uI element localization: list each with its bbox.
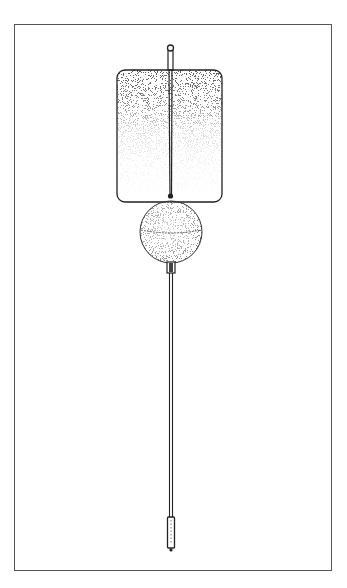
collar [167, 262, 175, 273]
sphere-float [140, 201, 202, 263]
top-knob [168, 45, 174, 70]
lower-rod [170, 273, 173, 517]
buoy-illustration [0, 0, 347, 588]
bottom-weight [168, 517, 175, 552]
